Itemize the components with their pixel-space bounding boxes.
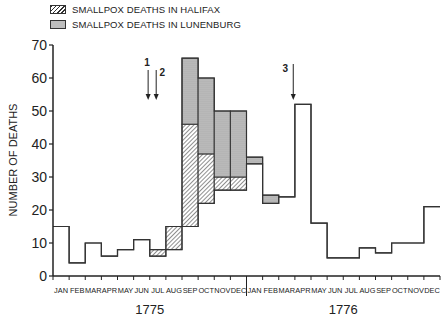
lunenburg-bar: [214, 111, 230, 177]
lunenburg-bar: [247, 157, 263, 164]
halifax-bar: [230, 177, 246, 190]
year-label: 1775: [135, 302, 164, 317]
lunenburg-bar: [182, 58, 198, 124]
x-tick-label: JUN: [135, 286, 149, 295]
x-tick-label: DEC: [424, 286, 440, 295]
x-tick-label: JAN: [248, 286, 262, 295]
y-tick-label: 40: [31, 136, 47, 152]
y-tick-label: 10: [31, 235, 47, 251]
halifax-bar: [166, 227, 182, 250]
y-tick-label: 50: [31, 103, 47, 119]
x-tick-label: FEB: [264, 286, 278, 295]
x-tick-label: JAN: [54, 286, 68, 295]
halifax-bar: [198, 154, 214, 204]
x-tick-label: DEC: [231, 286, 247, 295]
x-tick-label: JUN: [328, 286, 342, 295]
lunenburg-bar: [198, 78, 214, 154]
annotation-label: 3: [282, 63, 288, 74]
x-tick-label: MAR: [85, 286, 101, 295]
x-tick-label: MAY: [118, 286, 134, 295]
x-tick-label: NOV: [214, 286, 230, 295]
x-tick-label: JUL: [345, 286, 358, 295]
y-axis-label: NUMBER OF DEATHS: [7, 104, 19, 217]
x-tick-label: SEP: [183, 286, 198, 295]
halifax-bar: [214, 177, 230, 190]
x-tick-label: JUL: [151, 286, 164, 295]
y-tick-label: 30: [31, 169, 47, 185]
lunenburg-bar: [230, 111, 246, 177]
x-tick-label: NOV: [408, 286, 424, 295]
chart-plot: 010203040506070NUMBER OF DEATHSJANFEBMAR…: [0, 0, 447, 318]
x-tick-label: APR: [295, 286, 310, 295]
x-tick-label: OCT: [392, 286, 408, 295]
halifax-bar: [182, 124, 198, 226]
annotation-label: 1: [144, 57, 150, 68]
year-label: 1776: [329, 302, 358, 317]
down-arrow-icon: [146, 94, 151, 100]
lunenburg-bar: [263, 195, 279, 203]
y-tick-label: 20: [31, 202, 47, 218]
x-tick-label: APR: [102, 286, 117, 295]
halifax-bar: [150, 250, 166, 257]
x-tick-label: FEB: [70, 286, 84, 295]
y-tick-label: 70: [31, 37, 47, 53]
y-tick-label: 0: [39, 268, 47, 284]
x-tick-label: OCT: [198, 286, 214, 295]
x-tick-label: SEP: [376, 286, 391, 295]
annotations: 123: [144, 57, 295, 100]
y-tick-label: 60: [31, 70, 47, 86]
down-arrow-icon: [154, 94, 159, 100]
down-arrow-icon: [291, 94, 296, 100]
x-tick-label: MAY: [311, 286, 327, 295]
annotation-label: 2: [159, 67, 165, 78]
x-tick-label: AUG: [166, 286, 182, 295]
x-tick-label: AUG: [359, 286, 375, 295]
x-tick-label: MAR: [279, 286, 295, 295]
